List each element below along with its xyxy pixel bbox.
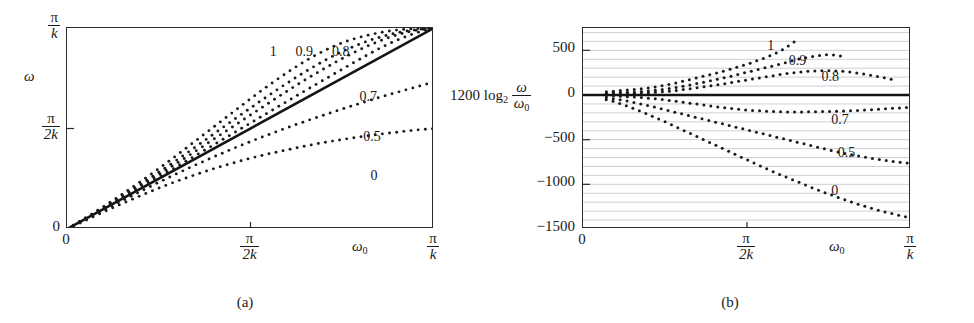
- curve-label-b-0-7: 0.7: [831, 112, 849, 128]
- y-axis-name-b: 1200 log2 ωω0: [450, 80, 531, 114]
- curve-label-a-0-7: 0.7: [360, 89, 378, 105]
- y-axis-name-a: ω: [24, 68, 35, 85]
- curve-label-b-0-9: 0.9: [789, 53, 807, 69]
- x-tick-label-a-0: 0: [44, 231, 88, 248]
- curve-label-a-0-5: 0.5: [363, 129, 381, 145]
- x-tick-label-b-2: πk: [888, 231, 932, 263]
- curve-label-a-0-9: 0.9: [295, 44, 313, 60]
- panel-caption-a: (a): [215, 294, 275, 311]
- x-axis-name-a: ω0: [352, 238, 368, 256]
- y-tick-label-b-3: −1000: [487, 173, 575, 190]
- x-tick-label-b-1: π2k: [724, 231, 768, 263]
- y-tick-label-a-0: πk: [10, 10, 60, 42]
- x-tick-label-a-1: π2k: [228, 231, 272, 263]
- x-axis-name-b: ω0: [829, 238, 845, 256]
- curve-label-b-0-8: 0.8: [821, 69, 839, 85]
- curve-label-b-1: 1: [767, 38, 774, 54]
- plot-area-b: [582, 27, 910, 228]
- curve-label-a-0-8: 0.8: [332, 44, 350, 60]
- plot-area-a: [66, 27, 433, 228]
- panel-a: πk π2k 0 0 π2k πk ω ω0 10.90.80.70.50 (a…: [0, 0, 487, 323]
- plot-canvas-b: [583, 28, 910, 228]
- panel-b: 500 0 −500 −1000 −1500 0 π2k πk 1200 log…: [487, 0, 974, 323]
- x-tick-label-b-0: 0: [560, 231, 604, 248]
- panel-caption-b: (b): [700, 294, 760, 311]
- curve-label-b-0: 0: [831, 183, 838, 199]
- x-tick-label-a-2: πk: [411, 231, 455, 263]
- curve-label-b-0-5: 0.5: [838, 145, 856, 161]
- y-tick-label-b-2: −500: [487, 129, 575, 146]
- y-tick-label-a-1: π2k: [10, 111, 60, 143]
- curve-label-a-0: 0: [371, 168, 378, 184]
- figure-container: πk π2k 0 0 π2k πk ω ω0 10.90.80.70.50 (a…: [0, 0, 974, 323]
- y-tick-label-b-0: 500: [487, 39, 575, 56]
- curve-label-a-1: 1: [270, 44, 277, 60]
